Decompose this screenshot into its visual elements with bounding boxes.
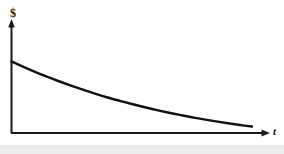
chart-background <box>0 0 284 154</box>
y-axis-label: $ <box>10 7 16 19</box>
bottom-gray-band <box>0 145 284 154</box>
exponential-decay-chart <box>0 0 284 154</box>
x-axis-label: t <box>273 126 276 137</box>
